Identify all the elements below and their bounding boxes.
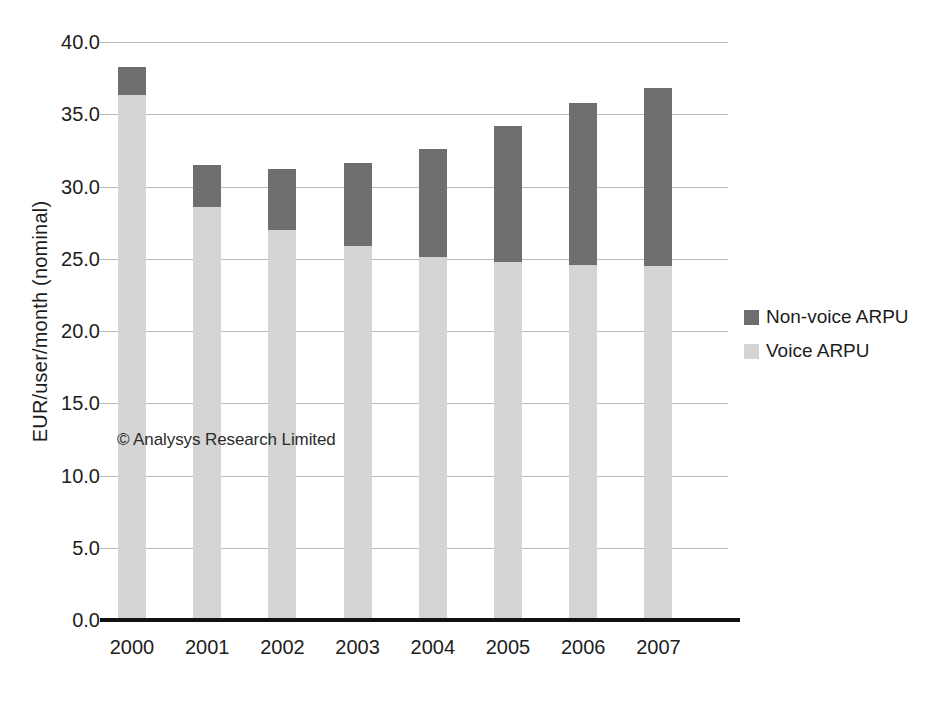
chart-legend: Non-voice ARPUVoice ARPU — [744, 300, 934, 368]
y-axis-tick-label: 20.0 — [28, 320, 100, 343]
bar-segment-voice-arpu — [268, 230, 296, 620]
bar-segment-voice-arpu — [419, 257, 447, 620]
copyright-watermark: © Analysys Research Limited — [117, 430, 336, 450]
bar-column — [268, 42, 296, 620]
bar-column — [419, 42, 447, 620]
bar-segment-voice-arpu — [118, 95, 146, 620]
y-axis-tick-label: 0.0 — [28, 609, 100, 632]
bar-segment-non-voice-arpu — [193, 165, 221, 207]
legend-item: Voice ARPU — [744, 334, 934, 368]
y-axis-tick-labels: 40.035.030.025.020.015.010.05.00.0 — [28, 0, 100, 708]
legend-label: Voice ARPU — [766, 340, 870, 362]
bar-segment-non-voice-arpu — [494, 126, 522, 262]
chart-container: EUR/user/month (nominal) 40.035.030.025.… — [0, 0, 941, 708]
bar-segment-voice-arpu — [344, 246, 372, 620]
y-axis-tick-label: 15.0 — [28, 392, 100, 415]
y-axis-tick-label: 10.0 — [28, 464, 100, 487]
bar-segment-voice-arpu — [193, 207, 221, 620]
y-axis-tick-label: 40.0 — [28, 31, 100, 54]
bar-segment-voice-arpu — [494, 262, 522, 620]
y-axis-tick-label: 35.0 — [28, 103, 100, 126]
bar-column — [569, 42, 597, 620]
bar-segment-non-voice-arpu — [644, 88, 672, 266]
legend-item: Non-voice ARPU — [744, 300, 934, 334]
bar-segment-non-voice-arpu — [268, 169, 296, 230]
bar-column — [193, 42, 221, 620]
bar-segment-non-voice-arpu — [569, 103, 597, 265]
legend-swatch-icon — [744, 344, 759, 359]
y-axis-tick-label: 30.0 — [28, 175, 100, 198]
plot-area — [110, 42, 718, 620]
x-axis-tick-label: 2007 — [613, 636, 703, 659]
y-axis-tick-label: 25.0 — [28, 247, 100, 270]
legend-label: Non-voice ARPU — [766, 306, 909, 328]
bar-column — [494, 42, 522, 620]
bar-segment-non-voice-arpu — [118, 67, 146, 96]
bar-segment-voice-arpu — [569, 265, 597, 620]
legend-swatch-icon — [744, 310, 759, 325]
bar-segment-voice-arpu — [644, 266, 672, 620]
bar-column — [344, 42, 372, 620]
bar-segment-non-voice-arpu — [419, 149, 447, 257]
y-axis-tick-label: 5.0 — [28, 536, 100, 559]
bar-column — [118, 42, 146, 620]
x-axis-line — [100, 618, 740, 622]
bar-column — [644, 42, 672, 620]
bar-segment-non-voice-arpu — [344, 163, 372, 245]
